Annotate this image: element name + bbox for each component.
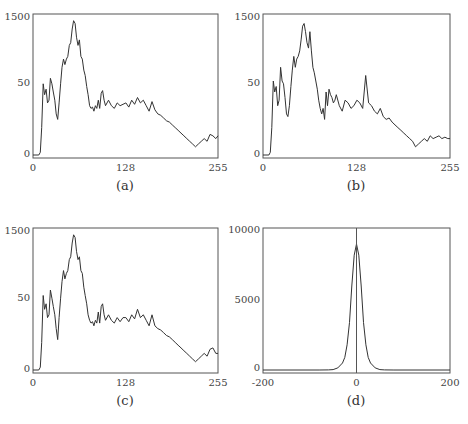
x-tick-label-d: -200	[252, 377, 274, 388]
chart-panel-d: -20002000500010000 (d)	[0, 0, 468, 424]
y-tick-label-d: 5000	[235, 294, 260, 305]
y-tick-label-d: 0	[254, 362, 260, 373]
x-tick-label-d: 200	[440, 377, 459, 388]
chart-d-caption: (d)	[336, 393, 376, 408]
x-tick-label-d: 0	[353, 377, 359, 388]
y-tick-label-d: 10000	[228, 224, 260, 235]
chart-d-svg: -20002000500010000	[0, 0, 468, 424]
